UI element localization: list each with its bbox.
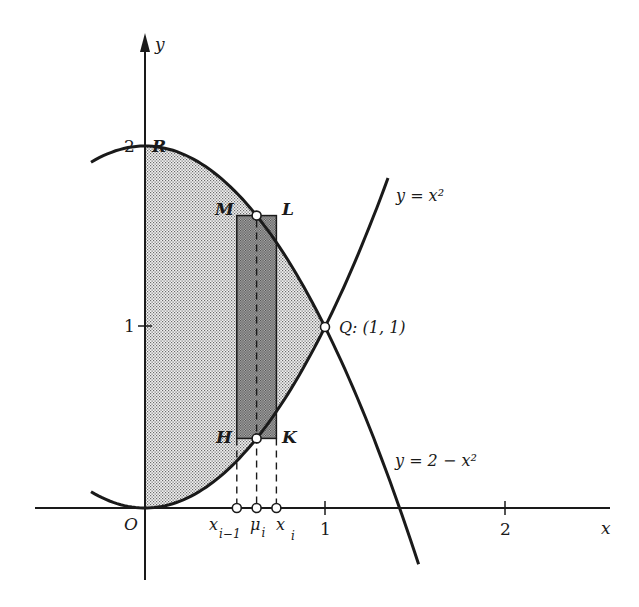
y-tick-label-1: 1: [124, 316, 135, 336]
point-label-m: M: [214, 199, 235, 219]
point-mu-icon: [252, 504, 261, 513]
point-label-q: Q: (1, 1): [339, 318, 406, 337]
y-axis-label: y: [154, 34, 165, 54]
point-label-h: H: [215, 427, 233, 447]
origin-label: O: [124, 514, 138, 534]
point-label-l: L: [281, 199, 294, 219]
point-x-cur-icon: [272, 504, 281, 513]
label-x-cur: xi: [276, 515, 295, 543]
label-mu: μi: [250, 515, 265, 540]
point-on-lower-curve-icon: [252, 434, 261, 443]
point-label-r: R: [151, 136, 166, 156]
x-tick-label-2: 2: [500, 519, 511, 539]
y-axis-arrow-icon: [140, 33, 150, 52]
y-tick-label-2: 2: [124, 136, 135, 156]
area-diagram: y x O 2 1 1 2 R M L H K Q: (1, 1) y = x²…: [0, 0, 639, 607]
x-axis-label: x: [601, 518, 611, 538]
point-x-prev-icon: [232, 504, 241, 513]
shaded-region: [145, 146, 325, 508]
x-tick-label-1: 1: [320, 519, 331, 539]
curve-label-2-minus-x-squared: y = 2 − x²: [394, 451, 477, 470]
point-label-k: K: [281, 427, 298, 447]
point-on-upper-curve-icon: [252, 211, 261, 220]
curve-label-x-squared: y = x²: [395, 186, 444, 205]
label-x-prev: xi−1: [209, 515, 241, 541]
point-q-icon: [321, 323, 330, 332]
